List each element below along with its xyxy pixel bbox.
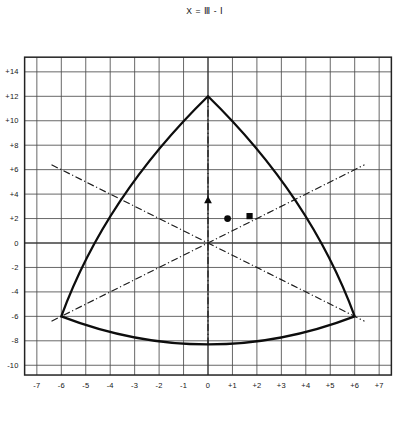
plot-area	[0, 0, 410, 429]
circle-point	[224, 215, 231, 222]
chart-figure: X = Ⅲ - Ⅰ Y = 2×Ⅱ - (Ⅰ + Ⅲ) +14+12+10+8+…	[0, 0, 410, 429]
triangle-point	[204, 196, 212, 203]
square-point	[246, 213, 252, 219]
data-point-markers	[204, 196, 253, 222]
